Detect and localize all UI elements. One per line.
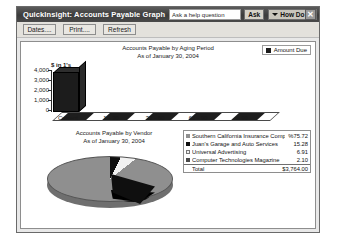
legend-value-universal-advertising: 6.91: [294, 149, 308, 155]
legend-value-computer-technologies: 2.10: [294, 157, 308, 163]
vendor-chart: Accounts Payable by Vendor As of January…: [21, 128, 315, 228]
legend-swatch-amount-due: [266, 48, 271, 53]
chevron-down-icon: [272, 13, 278, 16]
legend-label-universal-advertising: Universal Advertising: [192, 149, 294, 155]
x-label-over-90: > 90: [225, 115, 259, 121]
legend-label-southern-california: Southern California Insurance Company: [192, 133, 285, 139]
pie-title-line1: Accounts Payable by Vendor: [39, 130, 189, 138]
y-tick-2000: 2,000: [34, 87, 49, 93]
pie-top-face: [47, 156, 173, 202]
x-label-current: Current: [51, 115, 85, 121]
y-tick-1000: 1,000: [34, 97, 49, 103]
close-icon[interactable]: ✕: [305, 9, 316, 20]
toolbar: Dates.... Print.... Refresh: [17, 22, 319, 38]
legend-row-vendor[interactable]: Southern California Insurance Company %7…: [184, 132, 310, 140]
client-area: Accounts Payable by Aging Period As of J…: [20, 41, 316, 229]
y-tickmark-4000: [48, 70, 52, 71]
pie-graphic[interactable]: [45, 150, 181, 212]
legend-row-vendor[interactable]: Computer Technologies Magazine 2.10: [184, 156, 310, 164]
vendor-legend-table: Southern California Insurance Company %7…: [183, 130, 311, 173]
print-button[interactable]: Print....: [63, 24, 96, 35]
chart-title-vendor: Accounts Payable by Vendor As of January…: [39, 130, 189, 145]
y-axis-tick-labels: 4,000 3,000 2,000 1,000 0: [21, 70, 49, 112]
legend-swatch-computer-technologies: [186, 158, 190, 162]
legend-row-vendor[interactable]: Universal Advertising 6.91: [184, 148, 310, 156]
x-label-1-30: 1 - 30: [94, 115, 128, 121]
legend-value-juans-garage: 15.28: [290, 141, 308, 147]
y-tickmark-1000: [48, 100, 52, 101]
legend-swatch-southern-california: [186, 134, 190, 138]
y-axis-line: [51, 70, 52, 112]
legend-row-total: Total $3,764.00: [184, 164, 310, 172]
x-label-31-60: 31 - 60: [138, 115, 172, 121]
legend-value-southern-california: %75.72: [285, 133, 308, 139]
legend-row-vendor[interactable]: Juan's Garage and Auto Services 15.28: [184, 140, 310, 148]
legend-label-computer-technologies: Computer Technologies Magazine: [192, 157, 294, 163]
bar-current-front: [53, 72, 79, 112]
dates-button[interactable]: Dates....: [23, 24, 56, 35]
quickinsight-window: QuickInsight: Accounts Payable Graph Ask…: [16, 6, 320, 233]
title-bar: QuickInsight: Accounts Payable Graph Ask…: [17, 7, 319, 22]
y-tickmark-3000: [48, 80, 52, 81]
screenshot-root: QuickInsight: Accounts Payable Graph Ask…: [0, 0, 337, 246]
help-question-input[interactable]: Ask a help question: [169, 9, 241, 20]
legend-amount-due: Amount Due: [262, 45, 311, 55]
window-title: QuickInsight: Accounts Payable Graph: [19, 10, 165, 19]
y-tickmark-2000: [48, 90, 52, 91]
legend-swatch-universal-advertising: [186, 150, 190, 154]
aging-period-chart: Accounts Payable by Aging Period As of J…: [21, 42, 315, 126]
legend-label-juans-garage: Juan's Garage and Auto Services: [192, 141, 290, 147]
y-tick-3000: 3,000: [34, 77, 49, 83]
y-tick-4000: 4,000: [34, 67, 49, 73]
legend-label-amount-due: Amount Due: [274, 47, 307, 53]
pie-title-line2: As of January 30, 2004: [39, 138, 189, 146]
legend-label-total: Total: [192, 166, 279, 172]
y-tickmark-0: [48, 110, 52, 111]
legend-swatch-juans-garage: [186, 142, 190, 146]
ask-button[interactable]: Ask: [244, 9, 264, 20]
x-label-61-90: 61 - 90: [181, 115, 215, 121]
refresh-button[interactable]: Refresh: [103, 24, 136, 35]
bar-current-side: [79, 61, 86, 112]
legend-value-total: $3,764.00: [279, 166, 308, 172]
bar-plot-area: $ in 1's 4,000 3,000 2,000 1,000 0: [21, 62, 315, 126]
